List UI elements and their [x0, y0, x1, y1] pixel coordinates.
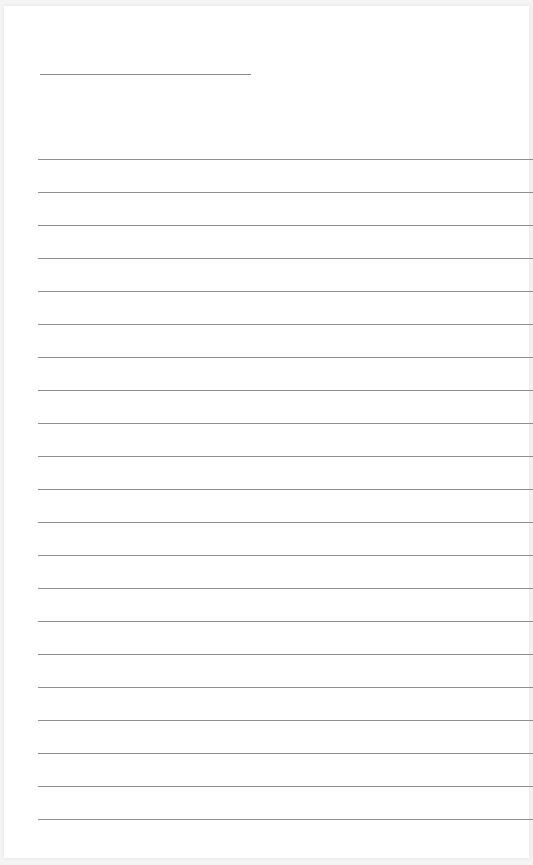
ruled-line	[38, 258, 533, 259]
ruled-line	[38, 786, 533, 787]
ruled-line	[38, 720, 533, 721]
ruled-line	[38, 390, 533, 391]
ruled-line	[38, 522, 533, 523]
ruled-line	[38, 819, 533, 820]
ruled-line	[38, 654, 533, 655]
ruled-line	[38, 555, 533, 556]
ruled-line	[38, 291, 533, 292]
ruled-line	[38, 753, 533, 754]
ruled-line	[38, 423, 533, 424]
ruled-line	[38, 225, 533, 226]
ruled-line	[38, 324, 533, 325]
ruled-line	[38, 159, 533, 160]
title-line	[40, 74, 251, 75]
ruled-line	[38, 192, 533, 193]
ruled-line	[38, 489, 533, 490]
ruled-line	[38, 621, 533, 622]
notepad-page	[4, 6, 529, 858]
ruled-line	[38, 456, 533, 457]
ruled-line	[38, 687, 533, 688]
ruled-line	[38, 357, 533, 358]
ruled-line	[38, 588, 533, 589]
